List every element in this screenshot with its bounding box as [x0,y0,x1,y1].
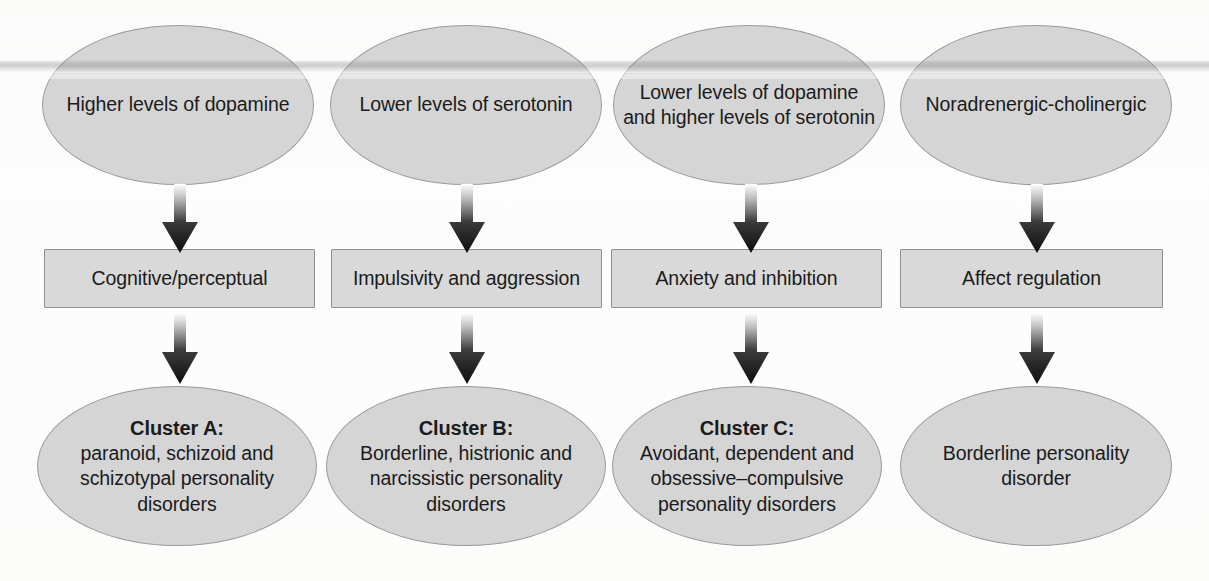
cluster-b-body: Borderline, histrionic and narcissistic … [335,441,597,517]
bottom-ellipse-cluster-c: Cluster C: Avoidant, dependent and obses… [612,386,882,546]
arrow-down-c-middle [732,313,770,385]
arrow-down-d-middle [1018,313,1056,385]
arrow-down-b-middle [448,313,486,385]
middle-box-column-d: Affect regulation [900,249,1163,308]
top-ellipse-column-d-label: Noradrenergic-cholinergic [918,92,1155,117]
bottom-ellipse-column-d-label: Borderline personality disorder [901,441,1171,492]
cluster-c-body: Avoidant, dependent and obsessive–compul… [615,441,879,517]
top-ellipse-column-a: Higher levels of dopamine [42,25,314,185]
middle-box-column-a: Cognitive/perceptual [44,249,315,308]
middle-box-column-b-label: Impulsivity and aggression [345,266,588,291]
top-ellipse-column-a-label: Higher levels of dopamine [59,92,298,117]
cluster-b-title: Cluster B: [335,415,597,441]
middle-box-column-d-label: Affect regulation [954,266,1109,291]
arrow-down-d-top [1018,184,1056,254]
middle-box-column-c: Anxiety and inhibition [611,249,882,308]
top-ellipse-column-b-label: Lower levels of serotonin [351,92,580,117]
arrow-down-b-top [448,184,486,254]
cluster-a-body: paranoid, schizoid and schizotypal perso… [46,441,308,517]
bottom-ellipse-cluster-a: Cluster A: paranoid, schizoid and schizo… [37,386,317,546]
middle-box-column-a-label: Cognitive/perceptual [84,266,276,291]
arrow-down-a-middle [161,313,199,385]
top-ellipse-column-d: Noradrenergic-cholinergic [900,25,1172,185]
arrow-down-a-top [161,184,199,254]
bottom-ellipse-cluster-a-text: Cluster A: paranoid, schizoid and schizo… [38,415,316,517]
bottom-ellipse-column-d: Borderline personality disorder [900,386,1172,546]
middle-box-column-b: Impulsivity and aggression [331,249,602,308]
bottom-ellipse-cluster-c-text: Cluster C: Avoidant, dependent and obses… [613,415,881,517]
cluster-c-title: Cluster C: [615,415,879,441]
bottom-ellipse-cluster-b-text: Cluster B: Borderline, histrionic and na… [327,415,605,517]
middle-box-column-c-label: Anxiety and inhibition [647,266,845,291]
diagram-canvas: Higher levels of dopamine Lower levels o… [0,0,1209,581]
top-ellipse-column-c-label: Lower levels of dopamine and higher leve… [614,80,884,131]
bottom-ellipse-cluster-b: Cluster B: Borderline, histrionic and na… [326,386,606,546]
top-ellipse-column-b: Lower levels of serotonin [330,25,602,185]
cluster-a-title: Cluster A: [46,415,308,441]
arrow-down-c-top [732,184,770,254]
top-ellipse-column-c: Lower levels of dopamine and higher leve… [613,25,885,185]
